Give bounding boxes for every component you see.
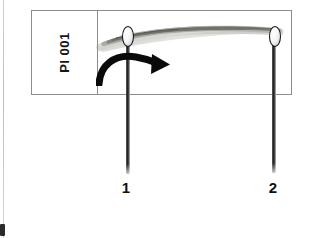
evidence-tag-id: Pl 001	[57, 32, 72, 73]
pin-2	[267, 30, 283, 173]
pin-1-label: 1	[116, 179, 136, 196]
rotation-arrow-icon	[96, 44, 176, 86]
figure-canvas: Pl 001 1 2	[0, 0, 316, 238]
page-edge-line	[3, 0, 4, 238]
scan-artifact-mark	[0, 224, 5, 236]
pin-2-shaft	[272, 30, 276, 173]
pin-2-label: 2	[263, 179, 283, 196]
pin-2-head	[269, 26, 281, 47]
evidence-label-cell: Pl 001	[31, 10, 98, 95]
